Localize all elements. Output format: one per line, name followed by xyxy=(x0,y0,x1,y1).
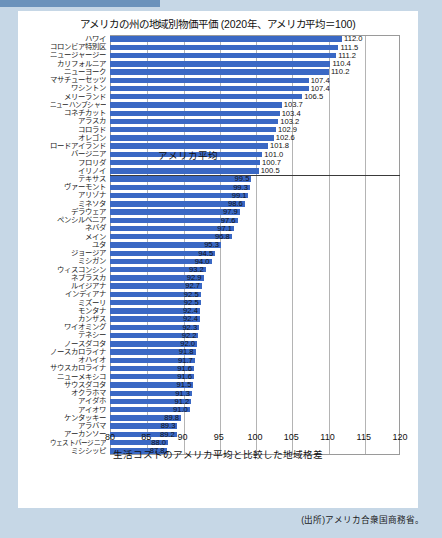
chart-title: アメリカの州の地域別物価平価 (2020年、アメリカ平均＝100) xyxy=(18,16,418,31)
bar xyxy=(110,234,232,239)
bar xyxy=(110,102,282,107)
average-reference-label: アメリカ平均 xyxy=(158,148,218,162)
bar xyxy=(110,176,251,181)
bar xyxy=(110,45,338,50)
bar xyxy=(110,86,309,91)
bar xyxy=(110,127,276,132)
average-reference-line xyxy=(110,175,400,176)
source-note: (出所)アメリカ合衆国商務省。 xyxy=(0,513,424,525)
x-axis-tick: 90 xyxy=(177,432,187,442)
x-axis-label: 生活コストのアメリカ平均と比較した地域格差 xyxy=(18,447,418,461)
x-axis-tick: 85 xyxy=(141,432,151,442)
bar xyxy=(110,69,329,74)
bar xyxy=(110,53,336,58)
bar xyxy=(110,119,278,124)
plot-wrapper: ハワイ112.0コロンビア特別区111.5ニュージャージー111.2カリフォルニ… xyxy=(18,35,418,473)
x-axis-tick: 115 xyxy=(357,432,371,442)
x-axis-ticks: 80859095100105110115120 xyxy=(110,432,400,446)
x-axis-tick: 110 xyxy=(320,432,334,442)
x-axis-tick: 105 xyxy=(284,432,299,442)
bar xyxy=(110,201,245,206)
bar xyxy=(110,78,309,83)
bar xyxy=(110,226,234,231)
decorative-top-strip xyxy=(0,0,160,7)
x-axis-tick: 80 xyxy=(105,432,115,442)
bar xyxy=(110,94,302,99)
bar xyxy=(110,209,240,214)
bar xyxy=(110,185,250,190)
bar xyxy=(110,193,248,198)
bar xyxy=(110,218,238,223)
bar xyxy=(110,168,259,173)
chart-card: アメリカの州の地域別物価平価 (2020年、アメリカ平均＝100) ハワイ112… xyxy=(18,11,418,508)
bar xyxy=(110,36,342,41)
bar xyxy=(110,111,280,116)
x-axis-tick: 120 xyxy=(392,432,407,442)
bar xyxy=(110,61,330,66)
x-axis-tick: 95 xyxy=(214,432,224,442)
bar xyxy=(110,135,274,140)
x-axis-tick: 100 xyxy=(247,432,262,442)
